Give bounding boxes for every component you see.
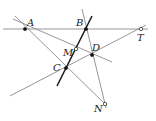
label-D: D: [91, 42, 100, 53]
label-M: M: [62, 47, 74, 58]
point-N: [103, 102, 106, 105]
label-A: A: [26, 17, 34, 28]
point-C: [64, 66, 67, 69]
label-B: B: [75, 17, 83, 28]
line-TDC: [10, 25, 146, 96]
point-D: [90, 53, 93, 56]
point-M: [74, 47, 77, 50]
geometry-diagram: A B T M D C N: [0, 0, 156, 121]
point-B: [84, 27, 87, 30]
point-T: [139, 27, 142, 30]
label-C: C: [53, 62, 61, 73]
label-N: N: [93, 103, 104, 114]
line-ACN: [15, 16, 107, 106]
label-T: T: [137, 32, 145, 43]
